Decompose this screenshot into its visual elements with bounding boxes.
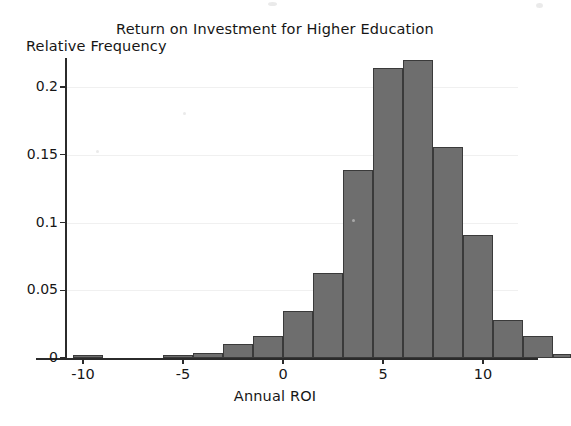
- scan-speck: [352, 219, 355, 222]
- y-tick-label: 0.15: [27, 146, 58, 162]
- histogram-bar: [373, 68, 403, 358]
- chart-title: Return on Investment for Higher Educatio…: [0, 21, 550, 37]
- scan-speck: [536, 3, 543, 8]
- x-tick-mark: [82, 358, 83, 364]
- histogram-bar: [223, 344, 253, 358]
- histogram-bar: [553, 354, 571, 358]
- histogram-bar: [463, 235, 493, 358]
- x-tick-mark: [182, 358, 183, 364]
- x-tick-label: 0: [278, 366, 287, 382]
- y-tick-mark: [60, 290, 66, 291]
- y-tick-mark: [60, 357, 66, 358]
- y-axis-line: [65, 58, 67, 359]
- histogram-bar: [493, 320, 523, 358]
- y-axis-label: Relative Frequency: [26, 38, 167, 54]
- x-tick-label: 5: [378, 366, 387, 382]
- x-axis-label: Annual ROI: [0, 388, 550, 404]
- histogram-bar: [523, 336, 553, 358]
- histogram-bar: [433, 147, 463, 358]
- y-tick-mark: [60, 86, 66, 87]
- histogram-bar: [343, 170, 373, 358]
- y-tick-label: 0.05: [27, 281, 58, 297]
- x-axis-line: [36, 358, 538, 360]
- scan-speck: [183, 112, 186, 115]
- histogram-bar: [283, 311, 313, 358]
- scan-speck: [268, 2, 277, 6]
- x-tick-mark: [282, 358, 283, 364]
- x-tick-mark: [382, 358, 383, 364]
- y-tick-mark: [60, 154, 66, 155]
- histogram-bar: [253, 336, 283, 358]
- scan-speck: [96, 150, 99, 153]
- histogram-bar: [313, 273, 343, 358]
- y-tick-label: 0: [49, 349, 58, 365]
- x-tick-label: 10: [474, 366, 492, 382]
- y-tick-label: 0.1: [36, 214, 58, 230]
- y-tick-label: 0.2: [36, 78, 58, 94]
- y-tick-mark: [60, 222, 66, 223]
- gridline: [66, 87, 518, 88]
- x-tick-label: -10: [71, 366, 95, 382]
- x-tick-label: -5: [176, 366, 190, 382]
- x-tick-mark: [482, 358, 483, 364]
- histogram-bar: [403, 60, 433, 358]
